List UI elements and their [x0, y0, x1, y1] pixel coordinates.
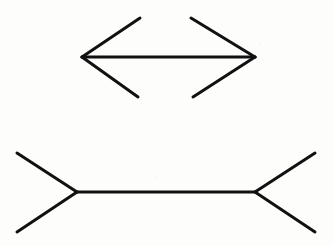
muller-lyer-figure: [0, 0, 333, 246]
arrowheads-inward-figure: [82, 18, 255, 97]
top-right-upper-fin: [191, 18, 255, 57]
arrowtails-outward-figure: [17, 153, 315, 232]
bottom-left-upper-fin: [17, 153, 77, 192]
bottom-left-lower-fin: [17, 192, 77, 232]
bottom-right-upper-fin: [255, 153, 315, 192]
top-left-lower-fin: [82, 57, 138, 97]
figure-svg: [0, 0, 333, 246]
bottom-right-lower-fin: [255, 192, 315, 232]
top-right-lower-fin: [193, 57, 255, 97]
top-left-upper-fin: [82, 18, 140, 57]
